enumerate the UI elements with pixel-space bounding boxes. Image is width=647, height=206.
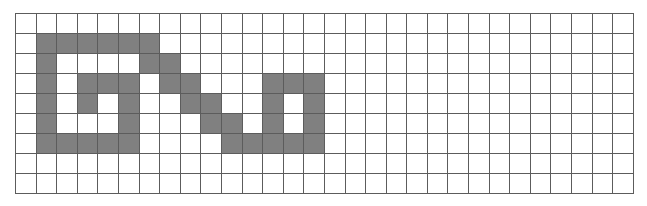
grid-cell-r8-c22[interactable] xyxy=(469,174,490,194)
grid-cell-r0-c12[interactable] xyxy=(263,14,284,34)
grid-cell-r8-c21[interactable] xyxy=(448,174,469,194)
grid-cell-r8-c10[interactable] xyxy=(222,174,243,194)
grid-cell-r7-c15[interactable] xyxy=(325,154,346,174)
grid-cell-r5-c17[interactable] xyxy=(366,114,387,134)
grid-cell-r8-c24[interactable] xyxy=(510,174,531,194)
grid-cell-r8-c27[interactable] xyxy=(572,174,593,194)
grid-cell-r3-c18[interactable] xyxy=(387,74,408,94)
grid-cell-r6-c0[interactable] xyxy=(16,134,37,154)
grid-cell-r1-c5[interactable] xyxy=(119,34,140,54)
grid-cell-r1-c19[interactable] xyxy=(407,34,428,54)
grid-cell-r5-c25[interactable] xyxy=(531,114,552,134)
grid-cell-r6-c16[interactable] xyxy=(346,134,367,154)
grid-cell-r4-c6[interactable] xyxy=(140,94,161,114)
grid-cell-r6-c24[interactable] xyxy=(510,134,531,154)
grid-cell-r1-c27[interactable] xyxy=(572,34,593,54)
grid-cell-r4-c14[interactable] xyxy=(304,94,325,114)
grid-cell-r3-c24[interactable] xyxy=(510,74,531,94)
grid-cell-r8-c2[interactable] xyxy=(57,174,78,194)
grid-cell-r7-c13[interactable] xyxy=(284,154,305,174)
grid-cell-r1-c11[interactable] xyxy=(243,34,264,54)
grid-cell-r7-c23[interactable] xyxy=(490,154,511,174)
grid-cell-r3-c20[interactable] xyxy=(428,74,449,94)
grid-cell-r2-c19[interactable] xyxy=(407,54,428,74)
grid-cell-r0-c10[interactable] xyxy=(222,14,243,34)
grid-cell-r3-c26[interactable] xyxy=(551,74,572,94)
grid-cell-r5-c0[interactable] xyxy=(16,114,37,134)
grid-cell-r8-c14[interactable] xyxy=(304,174,325,194)
grid-cell-r2-c24[interactable] xyxy=(510,54,531,74)
grid-cell-r6-c18[interactable] xyxy=(387,134,408,154)
grid-cell-r5-c20[interactable] xyxy=(428,114,449,134)
grid-cell-r8-c12[interactable] xyxy=(263,174,284,194)
grid-cell-r7-c5[interactable] xyxy=(119,154,140,174)
grid-cell-r0-c21[interactable] xyxy=(448,14,469,34)
grid-cell-r4-c21[interactable] xyxy=(448,94,469,114)
grid-cell-r2-c23[interactable] xyxy=(490,54,511,74)
grid-cell-r0-c4[interactable] xyxy=(98,14,119,34)
grid-cell-r7-c7[interactable] xyxy=(160,154,181,174)
grid-cell-r6-c23[interactable] xyxy=(490,134,511,154)
grid-cell-r5-c7[interactable] xyxy=(160,114,181,134)
grid-cell-r6-c5[interactable] xyxy=(119,134,140,154)
grid-cell-r1-c10[interactable] xyxy=(222,34,243,54)
grid-cell-r2-c28[interactable] xyxy=(593,54,614,74)
grid-cell-r1-c23[interactable] xyxy=(490,34,511,54)
grid-cell-r2-c8[interactable] xyxy=(181,54,202,74)
grid-cell-r3-c4[interactable] xyxy=(98,74,119,94)
grid-cell-r3-c11[interactable] xyxy=(243,74,264,94)
grid-cell-r3-c14[interactable] xyxy=(304,74,325,94)
grid-cell-r0-c1[interactable] xyxy=(37,14,58,34)
grid-cell-r8-c19[interactable] xyxy=(407,174,428,194)
grid-cell-r8-c28[interactable] xyxy=(593,174,614,194)
grid-cell-r7-c26[interactable] xyxy=(551,154,572,174)
grid-cell-r0-c13[interactable] xyxy=(284,14,305,34)
grid-cell-r5-c27[interactable] xyxy=(572,114,593,134)
grid-cell-r2-c0[interactable] xyxy=(16,54,37,74)
grid-cell-r4-c2[interactable] xyxy=(57,94,78,114)
grid-cell-r8-c3[interactable] xyxy=(78,174,99,194)
grid-cell-r4-c16[interactable] xyxy=(346,94,367,114)
grid-cell-r6-c27[interactable] xyxy=(572,134,593,154)
grid-cell-r1-c13[interactable] xyxy=(284,34,305,54)
grid-cell-r2-c6[interactable] xyxy=(140,54,161,74)
grid-cell-r4-c9[interactable] xyxy=(201,94,222,114)
grid-cell-r1-c7[interactable] xyxy=(160,34,181,54)
grid-cell-r0-c18[interactable] xyxy=(387,14,408,34)
grid-cell-r6-c17[interactable] xyxy=(366,134,387,154)
grid-cell-r6-c22[interactable] xyxy=(469,134,490,154)
grid-cell-r5-c23[interactable] xyxy=(490,114,511,134)
grid-cell-r5-c8[interactable] xyxy=(181,114,202,134)
grid-cell-r5-c28[interactable] xyxy=(593,114,614,134)
grid-cell-r4-c12[interactable] xyxy=(263,94,284,114)
grid-cell-r1-c3[interactable] xyxy=(78,34,99,54)
grid-cell-r2-c21[interactable] xyxy=(448,54,469,74)
grid-cell-r0-c28[interactable] xyxy=(593,14,614,34)
grid-cell-r5-c15[interactable] xyxy=(325,114,346,134)
grid-cell-r8-c29[interactable] xyxy=(613,174,634,194)
grid-cell-r5-c3[interactable] xyxy=(78,114,99,134)
grid-cell-r7-c0[interactable] xyxy=(16,154,37,174)
grid-cell-r8-c7[interactable] xyxy=(160,174,181,194)
grid-cell-r6-c15[interactable] xyxy=(325,134,346,154)
grid-cell-r2-c20[interactable] xyxy=(428,54,449,74)
grid-cell-r3-c6[interactable] xyxy=(140,74,161,94)
grid-cell-r1-c1[interactable] xyxy=(37,34,58,54)
grid-cell-r7-c16[interactable] xyxy=(346,154,367,174)
grid-cell-r6-c2[interactable] xyxy=(57,134,78,154)
grid-cell-r4-c17[interactable] xyxy=(366,94,387,114)
grid-cell-r0-c15[interactable] xyxy=(325,14,346,34)
grid-cell-r3-c27[interactable] xyxy=(572,74,593,94)
grid-cell-r0-c5[interactable] xyxy=(119,14,140,34)
grid-cell-r5-c1[interactable] xyxy=(37,114,58,134)
grid-cell-r8-c8[interactable] xyxy=(181,174,202,194)
grid-cell-r7-c21[interactable] xyxy=(448,154,469,174)
grid-cell-r0-c0[interactable] xyxy=(16,14,37,34)
grid-cell-r5-c13[interactable] xyxy=(284,114,305,134)
grid-cell-r6-c12[interactable] xyxy=(263,134,284,154)
grid-cell-r8-c25[interactable] xyxy=(531,174,552,194)
grid-cell-r3-c5[interactable] xyxy=(119,74,140,94)
grid-cell-r2-c12[interactable] xyxy=(263,54,284,74)
pixel-grid[interactable] xyxy=(15,13,634,194)
grid-cell-r0-c7[interactable] xyxy=(160,14,181,34)
